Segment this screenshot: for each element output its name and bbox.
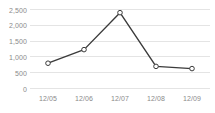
line-chart: 05001,0001,5002,0002,500 12/0512/0612/07…: [0, 0, 215, 113]
x-axis-tick-label: 12/07: [111, 95, 129, 102]
x-axis-tick-label: 12/06: [75, 95, 93, 102]
x-axis-tick-label: 12/09: [183, 95, 201, 102]
x-axis-tick-labels: 12/0512/0612/0712/0812/09: [0, 0, 215, 113]
x-axis-tick-label: 12/05: [39, 95, 57, 102]
x-axis-tick-label: 12/08: [147, 95, 165, 102]
